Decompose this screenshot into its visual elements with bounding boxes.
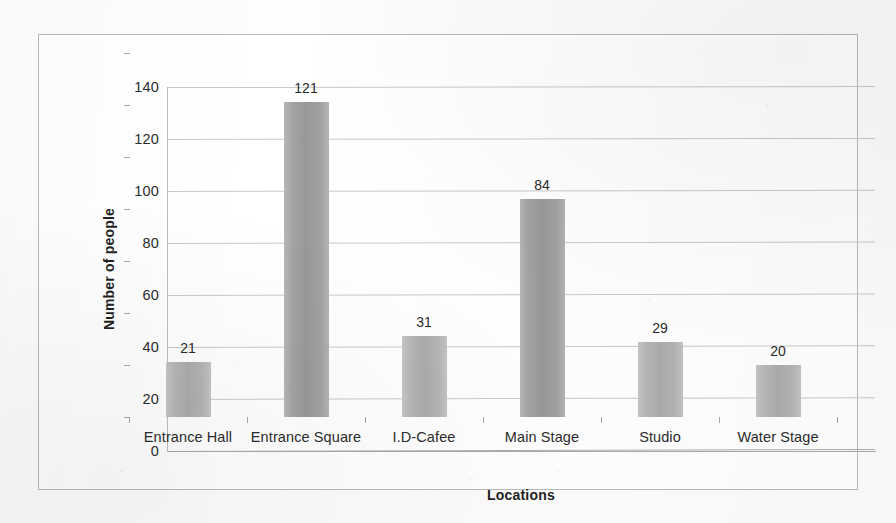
x-axis-title: Locations (167, 487, 875, 503)
bar (284, 102, 329, 417)
y-axis-tick-mark (124, 53, 130, 54)
y-axis-tick-label: 120 (134, 131, 159, 147)
y-axis-tick-label: 60 (142, 287, 159, 303)
y-axis-title: Number of people (101, 87, 123, 451)
x-axis-tick-mark (129, 417, 130, 423)
y-axis-tick-mark (124, 105, 130, 106)
x-axis-tick-mark (247, 417, 248, 423)
bar-value-label: 121 (294, 80, 317, 96)
bar (166, 362, 211, 417)
y-axis-tick-mark (124, 261, 130, 262)
y-axis-tick-mark (124, 365, 130, 366)
x-axis-tick-mark (483, 417, 484, 423)
y-axis-tick-mark (124, 209, 130, 210)
bar (402, 336, 447, 417)
chart-frame: 020406080100120140 2112131842920 Entranc… (38, 34, 858, 490)
scanned-page: 020406080100120140 2112131842920 Entranc… (0, 0, 896, 523)
gridline (167, 86, 875, 88)
x-axis-category-label: Entrance Square (251, 429, 361, 445)
y-axis-tick-label: 0 (151, 443, 159, 459)
x-axis-tick-mark (719, 417, 720, 423)
bar (638, 342, 683, 417)
x-axis-category-label: I.D-Cafee (393, 429, 456, 445)
x-axis-category-label: Water Stage (737, 429, 818, 445)
y-axis-tick-mark (124, 313, 130, 314)
bar-value-label: 29 (652, 320, 668, 336)
x-axis-tick-mark (365, 417, 366, 423)
bar (756, 365, 801, 417)
bar (520, 199, 565, 417)
x-axis-tick-mark (601, 417, 602, 423)
y-axis-tick-label: 40 (142, 339, 159, 355)
y-axis-tick-label: 140 (134, 79, 159, 95)
y-axis-tick-label: 20 (142, 391, 159, 407)
x-axis-category-label: Entrance Hall (144, 429, 232, 445)
y-axis-tick-label: 100 (134, 183, 159, 199)
x-axis-line (167, 451, 876, 452)
gridline (167, 138, 875, 140)
y-axis-tick-mark (124, 157, 130, 158)
bar-value-label: 21 (180, 340, 196, 356)
x-axis-category-label: Main Stage (505, 429, 579, 445)
bar-value-label: 84 (534, 177, 550, 193)
bar-value-label: 31 (416, 314, 432, 330)
x-axis-tick-mark (837, 417, 838, 423)
gridline (167, 190, 875, 192)
y-axis-tick-label: 80 (142, 235, 159, 251)
x-axis-category-label: Studio (639, 429, 681, 445)
bar-value-label: 20 (770, 343, 786, 359)
y-axis-tick-labels: 020406080100120140 (117, 87, 159, 451)
